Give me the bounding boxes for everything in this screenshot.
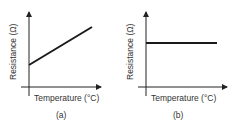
resistance-line-a	[29, 27, 92, 65]
caption-a: (a)	[56, 110, 67, 120]
panel-a: Resistance (Ω) Temperature (°C) (a)	[8, 12, 101, 120]
panel-b: Resistance (Ω) Temperature (°C) (b)	[125, 12, 227, 120]
y-label-b: Resistance (Ω)	[125, 23, 135, 80]
caption-b: (b)	[173, 110, 184, 120]
y-label-a: Resistance (Ω)	[8, 23, 18, 80]
x-label-b: Temperature (°C)	[151, 93, 216, 103]
x-label-a: Temperature (°C)	[34, 93, 99, 103]
diagram: Resistance (Ω) Temperature (°C) (a) Resi…	[0, 0, 236, 127]
